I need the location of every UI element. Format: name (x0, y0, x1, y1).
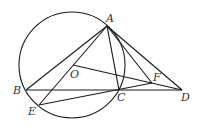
geometry-diagram: A B C D E F O (0, 0, 203, 131)
label-A: A (105, 12, 114, 25)
point-labels: A B C D E F O (12, 12, 190, 118)
segment-AC (107, 26, 119, 90)
segments (26, 26, 182, 105)
label-F: F (152, 71, 161, 84)
label-D: D (180, 91, 190, 104)
segment-EF (39, 83, 152, 105)
segment-AB (26, 26, 107, 90)
diagram-canvas: A B C D E F O (0, 0, 203, 131)
label-E: E (27, 105, 36, 118)
segment-AD (107, 26, 182, 90)
label-B: B (12, 84, 21, 97)
label-O: O (70, 68, 79, 81)
label-C: C (117, 91, 126, 104)
segment-OD (73, 65, 182, 90)
